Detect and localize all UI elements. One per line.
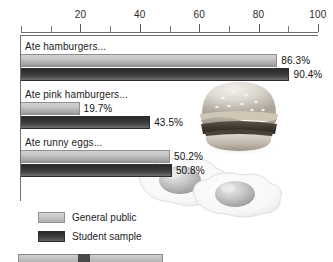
bar-group-0: Ate hamburgers...86.3%90.4% bbox=[21, 41, 333, 82]
legend-label-student-sample: Student sample bbox=[72, 231, 142, 242]
legend-label-general-public: General public bbox=[72, 212, 136, 223]
x-axis-tick-80 bbox=[259, 24, 260, 32]
x-axis-tick-label-20: 20 bbox=[75, 9, 87, 20]
bar-student-sample[interactable] bbox=[21, 116, 150, 129]
x-axis-tick-0 bbox=[21, 26, 22, 32]
bar-group-label: Ate hamburgers... bbox=[25, 41, 333, 52]
bar-student-sample[interactable] bbox=[21, 68, 289, 81]
legend-swatch-light bbox=[38, 212, 65, 223]
bar-group-1: Ate pink hamburgers...19.7%43.5% bbox=[21, 89, 333, 130]
bar-row: 50.2% bbox=[21, 150, 333, 163]
bar-value-label: 19.7% bbox=[80, 102, 113, 115]
bar-value-label: 50.2% bbox=[170, 150, 203, 163]
bar-row: 19.7% bbox=[21, 102, 333, 115]
x-axis-tick-30 bbox=[110, 26, 111, 32]
next-chart-partial-bar-segment bbox=[78, 254, 90, 262]
x-axis-tick-20 bbox=[80, 24, 81, 32]
x-axis-tick-10 bbox=[51, 26, 52, 32]
bar-general-public[interactable] bbox=[21, 54, 277, 67]
legend-swatch-dark bbox=[38, 231, 65, 242]
x-axis: 20406080100 bbox=[0, 0, 333, 36]
bar-value-label: 43.5% bbox=[150, 116, 183, 129]
x-axis-tick-label-40: 40 bbox=[134, 9, 146, 20]
x-axis-tick-100 bbox=[318, 24, 319, 32]
next-chart-partial-bar bbox=[18, 254, 163, 262]
bar-group-label: Ate pink hamburgers... bbox=[25, 89, 333, 100]
chart-legend: General public Student sample bbox=[38, 210, 142, 248]
bar-general-public[interactable] bbox=[21, 150, 170, 163]
x-axis-tick-50 bbox=[170, 26, 171, 32]
bar-row: 50.8% bbox=[21, 164, 333, 177]
bar-group-2: Ate runny eggs...50.2%50.8% bbox=[21, 137, 333, 178]
legend-item-student-sample: Student sample bbox=[38, 229, 142, 244]
x-axis-tick-90 bbox=[288, 26, 289, 32]
x-axis-tick-70 bbox=[229, 26, 230, 32]
x-axis-tick-40 bbox=[140, 24, 141, 32]
x-axis-tick-label-100: 100 bbox=[309, 9, 326, 20]
legend-item-general-public: General public bbox=[38, 210, 142, 225]
bar-general-public[interactable] bbox=[21, 102, 80, 115]
x-axis-tick-60 bbox=[199, 24, 200, 32]
x-axis-tick-label-80: 80 bbox=[253, 9, 265, 20]
bar-value-label: 90.4% bbox=[289, 68, 322, 81]
bar-group-label: Ate runny eggs... bbox=[25, 137, 333, 148]
bar-row: 86.3% bbox=[21, 54, 333, 67]
bar-value-label: 86.3% bbox=[277, 54, 310, 67]
bar-value-label: 50.8% bbox=[172, 164, 205, 177]
bar-row: 90.4% bbox=[21, 68, 333, 81]
x-axis-tick-label-60: 60 bbox=[193, 9, 205, 20]
bar-row: 43.5% bbox=[21, 116, 333, 129]
bar-student-sample[interactable] bbox=[21, 164, 172, 177]
x-axis-line bbox=[21, 32, 318, 33]
